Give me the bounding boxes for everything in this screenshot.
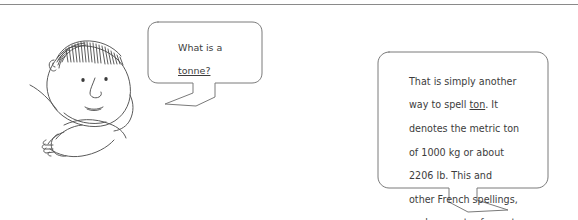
question-bubble-text: What is a tonne? [178, 30, 262, 76]
character-arm-icon [30, 85, 133, 157]
character-head-icon [47, 46, 131, 127]
nose-icon [90, 78, 101, 98]
hand-icon [43, 140, 53, 145]
mouth-icon [85, 107, 103, 109]
answer-line-6: other French spellings, [409, 194, 518, 205]
question-line-2: tonne? [178, 65, 210, 76]
answer-line-1: That is simply another [409, 76, 516, 87]
character-face-icon [64, 77, 108, 123]
question-line-1: What is a [178, 42, 222, 53]
answer-line-7: such as metre for meter, [409, 217, 528, 220]
answer-bubble-text: That is simply another way to spell ton.… [409, 64, 531, 220]
answer-line-4: of 1000 kg or about [409, 147, 504, 158]
left-eye-icon [81, 78, 84, 82]
top-divider-rule [0, 4, 578, 5]
right-eye-icon [104, 77, 107, 81]
answer-line-5: 2206 lb. This and [409, 170, 492, 181]
cartoon-panel: What is a tonne? That is simply another … [0, 0, 578, 220]
answer-line-3: denotes the metric ton [409, 123, 519, 134]
answer-line-2: way to spell ton. It [409, 99, 498, 110]
character-hair-icon [57, 41, 123, 68]
